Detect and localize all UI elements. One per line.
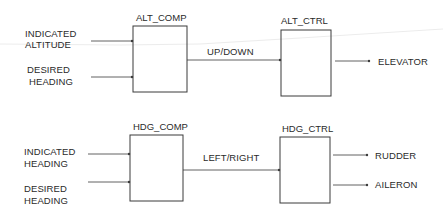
arrow-head-icon xyxy=(278,169,280,171)
rudder-label: RUDDER xyxy=(375,150,416,162)
input-label: INDICATED xyxy=(24,146,75,158)
arrow-head-icon xyxy=(131,76,133,78)
arrow-head-icon xyxy=(366,184,368,186)
arrow-head-icon xyxy=(366,154,368,156)
hdg-ctrl-block xyxy=(280,137,330,203)
input-label: DESIRED xyxy=(27,64,70,76)
input-label: HEADING xyxy=(24,195,68,207)
hdg-ctrl-title: HDG_CTRL xyxy=(282,123,333,135)
arrow-head-icon xyxy=(131,40,133,42)
input-label: ALTITUDE xyxy=(25,39,71,51)
elevator-label: ELEVATOR xyxy=(378,56,428,68)
hdg-comp-title: HDG_COMP xyxy=(133,121,188,133)
control-block-diagram: ALT_COMP ALT_CTRL HDG_COMP HDG_CTRL INDI… xyxy=(0,0,443,217)
left-right-label: LEFT/RIGHT xyxy=(203,152,259,164)
alt-comp-title: ALT_COMP xyxy=(136,12,187,24)
arrow-head-icon xyxy=(128,153,130,155)
alt-ctrl-block xyxy=(281,30,331,96)
arrow-head-icon xyxy=(279,59,281,61)
input-label: HEADING xyxy=(29,76,73,88)
alt-ctrl-title: ALT_CTRL xyxy=(281,15,328,27)
hdg-comp-block xyxy=(130,135,183,201)
input-label: DESIRED xyxy=(24,183,67,195)
arrow-head-icon xyxy=(128,181,130,183)
input-label: HEADING xyxy=(24,158,68,170)
arrow-head-icon xyxy=(368,60,370,62)
up-down-label: UP/DOWN xyxy=(207,46,254,58)
aileron-label: AILERON xyxy=(375,179,417,191)
alt-comp-block xyxy=(133,26,187,92)
